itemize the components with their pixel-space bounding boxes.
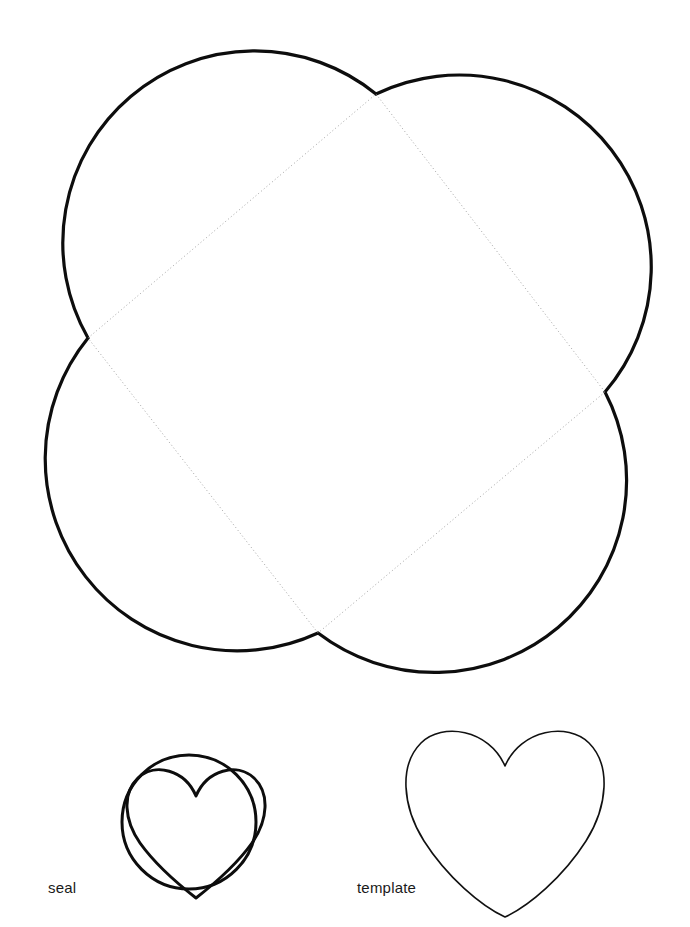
seal-label: seal — [48, 879, 76, 896]
four-petal-envelope-body — [45, 51, 651, 673]
craft-template-sheet: seal template — [0, 0, 690, 927]
template-heart-outline — [406, 731, 604, 917]
template-heart-piece — [406, 731, 604, 917]
seal-piece — [122, 755, 265, 898]
template-label: template — [357, 879, 416, 896]
craft-template-diagram: seal template — [0, 0, 690, 927]
envelope-outline-path — [45, 51, 651, 673]
